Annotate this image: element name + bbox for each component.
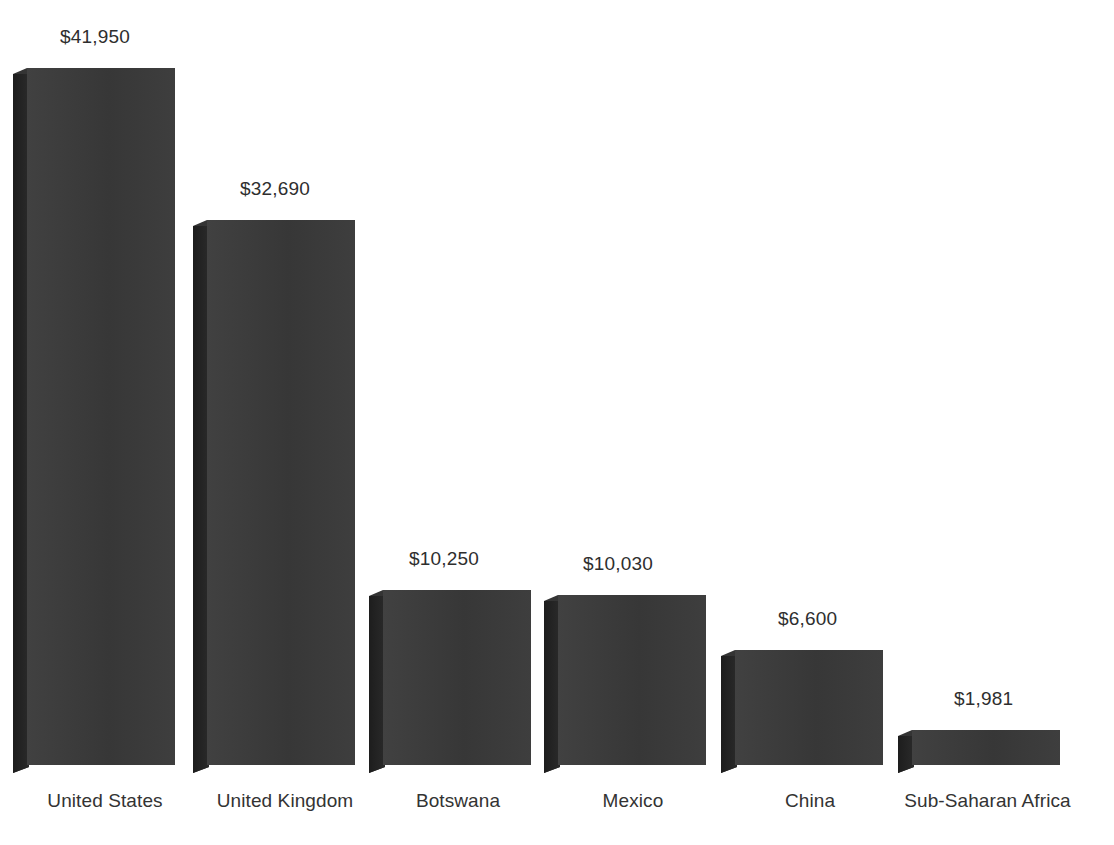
bar-group-0	[0, 0, 1114, 845]
bar-top-face-3	[544, 589, 707, 603]
bar-front-face-3	[558, 595, 706, 765]
bar-side-face-5	[898, 736, 914, 773]
bar-value-label-5: $1,981	[954, 688, 1013, 710]
bar-front-face-2	[383, 590, 531, 765]
bar-side-face-4	[721, 656, 737, 773]
bar-top-face-4	[721, 644, 884, 658]
bar-category-label-0: United States	[0, 790, 210, 812]
bar-top-face-5	[898, 724, 1061, 738]
bar-front-face-5	[912, 730, 1060, 765]
bar-front-face-4	[735, 650, 883, 765]
bar-side-face-2	[369, 596, 385, 773]
bar-front-face-0	[27, 68, 175, 765]
bar-value-label-3: $10,030	[583, 553, 653, 575]
bar-category-label-1: United Kingdom	[180, 790, 390, 812]
bar-value-label-0: $41,950	[60, 26, 130, 48]
bar-category-label-2: Botswana	[360, 790, 556, 812]
bar-top-face-0	[13, 62, 176, 76]
bar-side-face-0	[13, 74, 29, 773]
bar-front-face-1	[207, 220, 355, 765]
bar-category-label-3: Mexico	[535, 790, 731, 812]
bar-group-5	[0, 0, 1114, 845]
bar-group-4	[0, 0, 1114, 845]
bar-value-label-2: $10,250	[409, 548, 479, 570]
bar-category-label-5: Sub-Saharan Africa	[880, 790, 1095, 812]
bar-group-1	[0, 0, 1114, 845]
bar-chart: $41,950 United States $32,690 United Kin…	[0, 0, 1114, 845]
bar-side-face-3	[544, 601, 560, 773]
bar-category-label-4: China	[712, 790, 908, 812]
bar-top-face-2	[369, 584, 532, 598]
bar-value-label-1: $32,690	[240, 178, 310, 200]
bar-value-label-4: $6,600	[778, 608, 837, 630]
bar-group-2	[0, 0, 1114, 845]
bar-side-face-1	[193, 226, 209, 773]
bar-group-3	[0, 0, 1114, 845]
bar-top-face-1	[193, 214, 356, 228]
